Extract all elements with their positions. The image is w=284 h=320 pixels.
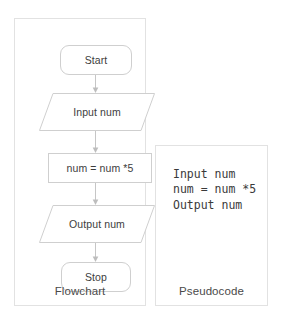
flowchart-node-process[interactable]: num = num *5 (48, 153, 152, 183)
flowchart-node-process-label: num = num *5 (67, 162, 134, 174)
pseudocode-text: Input num num = num *5 Output num (173, 167, 256, 214)
connector-output-to-stop (91, 243, 100, 262)
pseudocode-caption: Pseudocode (156, 285, 267, 297)
connector-start-to-input (91, 75, 100, 93)
flowchart-caption: Flowchart (15, 285, 145, 297)
down-arrow-icon (91, 243, 100, 262)
flowchart-node-input-label: Input num (73, 106, 121, 118)
connector-input-to-process (91, 131, 100, 153)
flowchart-node-output-label: Output num (69, 218, 125, 230)
flowchart-node-output[interactable]: Output num (39, 205, 155, 243)
flowchart-node-start-label: Start (85, 54, 108, 66)
down-arrow-icon (91, 131, 100, 153)
flowchart-node-stop-label: Stop (85, 271, 107, 283)
down-arrow-icon (91, 75, 100, 93)
connector-process-to-output (91, 183, 100, 205)
flowchart-node-input[interactable]: Input num (39, 93, 155, 131)
flowchart-node-start[interactable]: Start (60, 45, 132, 75)
flowchart-panel: Start Input num num = num *5 (14, 18, 146, 306)
pseudocode-panel: Input num num = num *5 Output num Pseudo… (155, 145, 268, 306)
down-arrow-icon (91, 183, 100, 205)
